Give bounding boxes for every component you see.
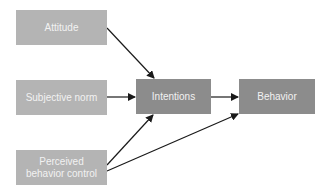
- arrow-control-behavior: [107, 114, 238, 171]
- arrow-control-intentions: [107, 115, 153, 165]
- node-attitude-label: Attitude: [45, 22, 79, 34]
- node-subjective-norm-label: Subjective norm: [26, 92, 98, 104]
- node-intentions-label: Intentions: [152, 91, 195, 103]
- node-perceived-label-line2: behavior control: [26, 168, 97, 180]
- node-perceived-label-line1: Perceived: [39, 156, 83, 168]
- arrow-attitude-intentions: [107, 28, 154, 78]
- node-intentions: Intentions: [136, 79, 211, 114]
- node-subjective-norm: Subjective norm: [16, 80, 107, 115]
- node-perceived-behavior-control: Perceived behavior control: [16, 150, 107, 185]
- node-behavior-label: Behavior: [257, 91, 296, 103]
- node-attitude: Attitude: [16, 10, 107, 45]
- node-behavior: Behavior: [239, 79, 315, 114]
